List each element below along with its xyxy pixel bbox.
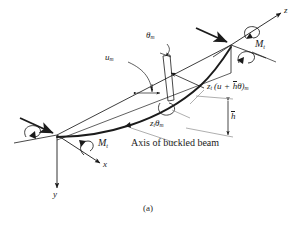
left-mt-spiral (79, 140, 93, 155)
figure-caption: (a) (0, 203, 296, 213)
hbar-dimension (186, 96, 233, 137)
disp-plus-sign: + (225, 81, 230, 91)
x-axis-line (57, 135, 100, 163)
right-compression-arrow (196, 28, 227, 42)
axis-of-buckled-beam-note: Axis of buckled beam (131, 138, 219, 148)
u-m-label: um (105, 53, 114, 63)
left-moment-label: Mt (98, 138, 108, 149)
left-moment-subscript: t (106, 142, 108, 149)
disp-tail-subscript: m (245, 85, 249, 91)
reference-plane-chord (57, 73, 231, 140)
u-m-leader (128, 62, 160, 93)
displacement-label-leader (171, 73, 204, 104)
ztheta-label: ztθm (150, 119, 164, 129)
disp-hbar-symbol: h (233, 81, 238, 91)
disp-theta-symbol: θ) (237, 81, 244, 91)
hbar-symbol: h (231, 111, 236, 121)
theta-m-label: θm (146, 31, 154, 41)
u-subscript: m (110, 56, 114, 62)
disp-hbar-group: h (233, 82, 238, 91)
right-mt-leader (252, 52, 276, 62)
right-moment-subscript: t (263, 43, 265, 50)
right-end-node (196, 13, 281, 73)
disp-open-paren: (u (214, 81, 222, 91)
right-moment-label: Mt (255, 39, 265, 50)
displacement-label: zt(u+hθ)m (207, 82, 249, 92)
y-axis-label: y (53, 190, 57, 199)
hbar-overline-stroke (233, 81, 237, 82)
theta-subscript: m (150, 34, 154, 40)
hbar-group: h (231, 112, 236, 121)
right-torque-spiral-mt (237, 52, 255, 64)
buckled-beam-curve (57, 47, 231, 137)
left-torque-spiral (25, 126, 41, 139)
x-axis-label: x (103, 160, 107, 169)
hbar-bar-stroke (231, 111, 235, 112)
z-axis-label: z (284, 6, 288, 15)
hbar-lower-extension (186, 128, 233, 137)
ztheta-subscript: m (160, 122, 164, 128)
disp-z-subscript: t (211, 85, 213, 91)
buckled-beam-figure: z x y Mt Mt θm um zt(u+hθ)m ztθm h Axis … (0, 0, 296, 236)
ztheta-leader (172, 110, 190, 118)
hbar-label: h (231, 112, 236, 121)
hbar-upper-extension (196, 96, 233, 99)
undeformed-axis-line (57, 45, 231, 135)
